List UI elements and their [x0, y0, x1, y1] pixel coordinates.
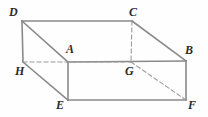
cuboid-wireframe-svg [0, 0, 208, 117]
vertex-label-e: E [56, 99, 64, 111]
edge-layer [22, 21, 186, 100]
cuboid-figure-canvas: DCABHGEF [0, 0, 208, 117]
vertex-label-f: F [188, 99, 196, 111]
vertex-label-b: B [185, 44, 193, 56]
edge-DA [22, 21, 68, 62]
edge-DH [22, 21, 23, 62]
edge-HE [23, 62, 68, 100]
vertex-label-h: H [15, 65, 24, 77]
edge-GF [131, 62, 186, 100]
vertex-label-c: C [129, 6, 137, 18]
edge-CB [132, 21, 186, 61]
vertex-label-g: G [125, 65, 134, 77]
vertex-label-a: A [66, 43, 74, 55]
edge-CG [131, 21, 132, 62]
vertex-label-d: D [9, 6, 18, 18]
